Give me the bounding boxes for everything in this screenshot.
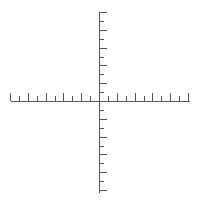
x-axis — [11, 93, 191, 102]
axes-diagram — [0, 0, 201, 210]
y-axis — [99, 12, 107, 193]
coordinate-plane — [0, 0, 201, 210]
